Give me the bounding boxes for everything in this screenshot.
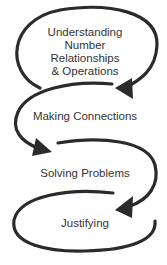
arrowhead-2-icon [32,138,52,156]
step-solving-problems-label: Solving Problems [30,167,140,180]
step-2-line-1: Making Connections [20,110,150,123]
step-4-line-1: Justifying [40,217,130,230]
arrowhead-3-icon [115,196,133,218]
step-1-line-4: & Operations [30,65,140,78]
step-1-line-3: Relationships [30,52,140,65]
step-3-line-1: Solving Problems [30,167,140,180]
step-1-line-1: Understanding [30,26,140,39]
arrowhead-1-icon [115,78,133,99]
step-justifying-label: Justifying [40,217,130,230]
step-making-connections-label: Making Connections [20,110,150,123]
step-understanding-label: Understanding Number Relationships & Ope… [30,26,140,78]
step-1-line-2: Number [30,39,140,52]
